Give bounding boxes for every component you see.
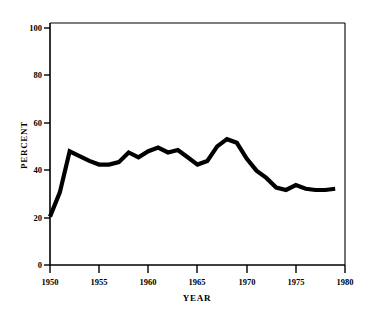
- chart-figure: 100 80 60 40 20 0 1950 1955 1960 1965 19…: [0, 0, 368, 314]
- x-tick-label-1955: 1955: [91, 277, 108, 287]
- line-chart: 100 80 60 40 20 0 1950 1955 1960 1965 19…: [0, 0, 368, 314]
- x-tick-label-1960: 1960: [140, 277, 157, 287]
- y-tick-label-0: 0: [38, 260, 42, 270]
- y-axis-title: PERCENT: [19, 121, 29, 169]
- x-axis-title: YEAR: [183, 293, 211, 303]
- x-tick-label-1975: 1975: [288, 277, 305, 287]
- y-tick-label-40: 40: [34, 165, 43, 175]
- y-tick-label-20: 20: [34, 213, 43, 223]
- x-tick-label-1970: 1970: [239, 277, 256, 287]
- y-tick-label-80: 80: [34, 70, 43, 80]
- x-axis-tick-labels: 1950 1955 1960 1965 1970 1975 1980: [42, 277, 354, 287]
- x-tick-label-1965: 1965: [189, 277, 206, 287]
- y-axis-ticks: [44, 28, 50, 265]
- data-line-percent: [50, 139, 335, 216]
- x-tick-label-1980: 1980: [337, 277, 354, 287]
- y-axis-tick-labels: 100 80 60 40 20 0: [29, 23, 42, 270]
- x-axis-ticks: [50, 265, 345, 273]
- y-tick-label-60: 60: [34, 118, 43, 128]
- plot-frame: [50, 23, 345, 265]
- y-tick-label-100: 100: [29, 23, 42, 33]
- x-tick-label-1950: 1950: [42, 277, 59, 287]
